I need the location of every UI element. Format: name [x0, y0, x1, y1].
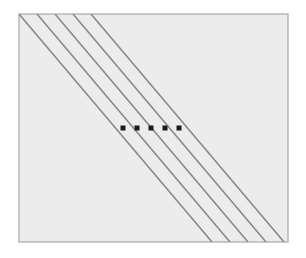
marked-point-3 — [149, 126, 154, 131]
figure-container — [0, 0, 306, 258]
marked-point-2 — [135, 126, 140, 131]
marked-point-1 — [121, 126, 126, 131]
marked-point-4 — [163, 126, 168, 131]
marked-point-5 — [177, 126, 182, 131]
figure-canvas — [0, 0, 306, 258]
